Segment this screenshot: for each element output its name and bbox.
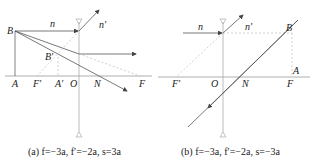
label-A: A bbox=[11, 78, 19, 89]
label-B: B bbox=[7, 25, 13, 36]
panel-a: B n n' B' A F' A' O N F bbox=[5, 10, 152, 137]
label-O: O bbox=[211, 78, 218, 89]
label-n-prime: n' bbox=[99, 19, 107, 30]
label-F: F bbox=[138, 78, 146, 89]
label-F-prime: F' bbox=[171, 78, 181, 89]
label-B: B bbox=[286, 22, 292, 33]
caption-b: (b) f=−3a, f′=−2a, s=−3a bbox=[181, 146, 280, 157]
label-n: n bbox=[50, 18, 55, 29]
label-N: N bbox=[93, 78, 102, 89]
bottom-triangle-icon bbox=[220, 132, 226, 137]
caption-a: (a) f=−3a, f′=−2a, s=3a bbox=[28, 146, 121, 157]
label-N: N bbox=[241, 78, 250, 89]
optics-diagram: B n n' B' A F' A' O N F n n' B A F' O N … bbox=[0, 0, 313, 166]
label-F-prime: F' bbox=[32, 78, 42, 89]
bottom-triangle-icon bbox=[76, 132, 82, 137]
label-B-prime: B' bbox=[45, 51, 54, 62]
label-A-prime: A' bbox=[54, 78, 64, 89]
label-F: F bbox=[286, 78, 294, 89]
label-n-prime: n' bbox=[245, 21, 253, 32]
panel-b: n n' B A F' O N F bbox=[158, 15, 310, 137]
label-O: O bbox=[70, 78, 77, 89]
label-A: A bbox=[292, 65, 300, 76]
label-n: n bbox=[198, 21, 203, 32]
